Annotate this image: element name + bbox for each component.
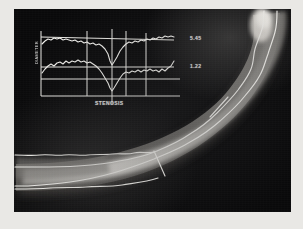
chart-y-axis-label: DIAMETER (34, 41, 39, 64)
stenosis-label: STENOSIS (95, 100, 123, 106)
reference-label-lower: 1.22 (190, 63, 201, 69)
trace-diameter-upper (42, 36, 174, 65)
angiogram-film-panel: 5.45 1.22 STENOSIS DIAMETER (14, 9, 291, 212)
qca-screenshot: 5.45 1.22 STENOSIS DIAMETER (0, 0, 303, 229)
diameter-function-chart (14, 9, 291, 212)
reference-label-upper: 5.45 (190, 35, 201, 41)
trace-diameter-lower (42, 60, 174, 91)
